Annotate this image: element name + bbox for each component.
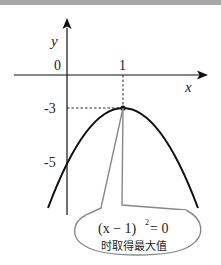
callout-pointer-left [86,108,123,215]
x-tick-1-label: 1 [119,58,126,73]
y-axis-label: y [49,33,58,49]
y-axis-arrow-icon [63,18,72,29]
y-tick-neg3-label: -3 [44,101,56,116]
callout-equation-base: (x − 1) [98,221,137,237]
x-axis-label: x [184,79,192,95]
callout-equation-exponent: 2 [145,218,149,227]
callout-caption: 时取得最大值 [101,239,167,252]
origin-label: 0 [54,58,61,73]
parabola-diagram: y 0 1 x -3 -5 (x − 1) 2 = 0 时取得最大值 [0,0,221,265]
y-tick-neg5-label: -5 [44,155,56,170]
callout-equation-rhs: = 0 [150,221,168,236]
